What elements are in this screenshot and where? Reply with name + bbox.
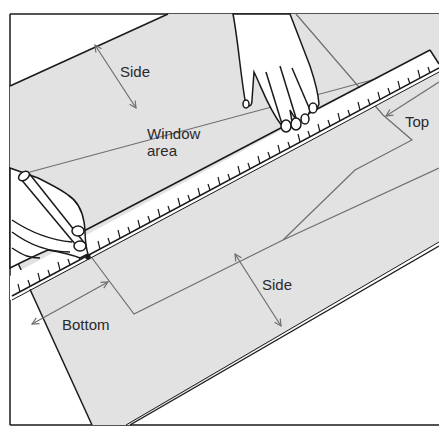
label-bottom: Bottom — [62, 317, 110, 333]
diagram-canvas: Side Window area Top Side Bottom — [0, 0, 439, 430]
label-side-bottom: Side — [262, 277, 292, 293]
label-window-area-line2: area — [147, 143, 177, 159]
label-window-area-line1: Window — [147, 126, 200, 142]
diagram-illustration — [0, 0, 439, 430]
label-top: Top — [405, 114, 429, 130]
label-side-top: Side — [120, 64, 150, 80]
